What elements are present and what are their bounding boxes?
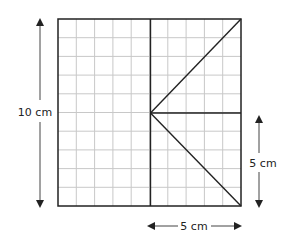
- right-dimension-label: 5 cm: [249, 157, 276, 170]
- left-dimension-10cm: 10 cm: [16, 20, 56, 206]
- lower-diagonal-line: [151, 113, 242, 206]
- construction-lines: [151, 19, 242, 206]
- upper-diagonal-line: [151, 19, 242, 113]
- bottom-dimension-label: 5 cm: [180, 220, 207, 233]
- right-dimension-5cm: 5 cm: [246, 117, 280, 206]
- bottom-dimension-5cm: 5 cm: [149, 220, 240, 233]
- geometry-diagram: 10 cm 5 cm 5 cm: [0, 0, 287, 242]
- left-dimension-label: 10 cm: [18, 106, 52, 119]
